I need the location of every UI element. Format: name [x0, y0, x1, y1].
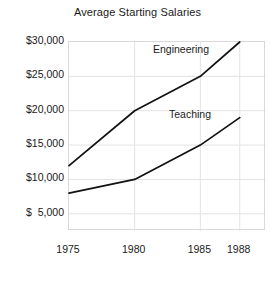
series-lines — [69, 42, 266, 231]
y-tick-label: $30,000 — [2, 35, 64, 46]
y-tick-label: $20,000 — [2, 104, 64, 115]
y-tick-label: $10,000 — [2, 172, 64, 183]
series-label-engineering: Engineering — [153, 43, 209, 55]
x-axis-tick-labels: 1975198019851988 — [68, 243, 265, 263]
x-tick-label: 1980 — [109, 243, 159, 255]
series-label-teaching: Teaching — [169, 108, 211, 120]
plot-area — [68, 41, 265, 230]
x-tick-label: 1988 — [214, 243, 264, 255]
y-axis-tick-labels: $30,000$25,000$20,000$15,000$10,000$ 5,0… — [0, 0, 64, 284]
y-tick-label: $25,000 — [2, 69, 64, 80]
y-tick-label: $15,000 — [2, 138, 64, 149]
x-tick-label: 1975 — [43, 243, 93, 255]
series-line-teaching — [69, 118, 240, 194]
series-line-engineering — [69, 42, 240, 166]
salary-line-chart: Average Starting Salaries $30,000$25,000… — [0, 0, 275, 284]
y-tick-label: $ 5,000 — [2, 207, 64, 218]
